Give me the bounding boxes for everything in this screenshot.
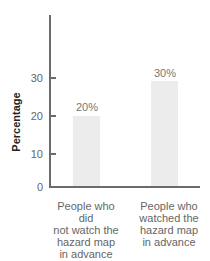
y-tick-label-20: 20	[13, 110, 43, 122]
category-line: in advance	[134, 236, 204, 248]
category-line: People who did	[51, 200, 121, 224]
y-axis-line	[49, 15, 51, 188]
x-axis-line	[49, 186, 200, 188]
category-line: in advance	[51, 248, 121, 260]
bar-not-watched	[73, 116, 100, 186]
y-tick-label-0: 0	[13, 181, 43, 193]
y-tick-30	[51, 77, 56, 79]
category-line: watched the	[134, 212, 204, 224]
bar-value-label-not-watched: 20%	[67, 101, 107, 113]
category-line: People who	[134, 200, 204, 212]
category-label-watched: People who watched the hazard map in adv…	[134, 200, 204, 248]
bar-watched	[151, 81, 178, 186]
y-tick-20	[51, 115, 56, 117]
y-tick-label-10: 10	[13, 148, 43, 160]
category-line: not watch the	[51, 224, 121, 236]
y-tick-label-30: 30	[13, 72, 43, 84]
bar-value-label-watched: 30%	[145, 67, 185, 79]
category-line: hazard map	[51, 236, 121, 248]
category-line: hazard map	[134, 224, 204, 236]
y-tick-10	[51, 153, 56, 155]
category-label-not-watched: People who did not watch the hazard map …	[51, 200, 121, 260]
